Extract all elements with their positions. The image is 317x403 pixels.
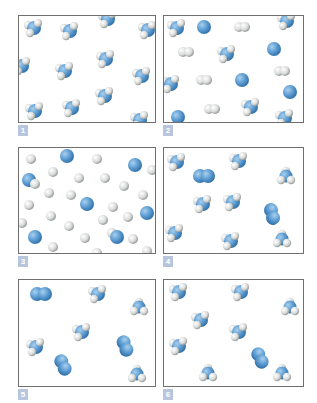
ammonia-molecule [130, 111, 148, 123]
nitrogen-atom [110, 230, 124, 244]
nitrogen-atom [128, 158, 142, 172]
ammonia-molecule [191, 311, 209, 329]
ammonia-molecule [25, 102, 43, 120]
ammonia-molecule [167, 153, 185, 171]
ammonia-molecule [169, 283, 187, 301]
ammonia-molecule [60, 22, 78, 40]
ammonia-molecule [98, 16, 116, 28]
hydrogen-atom [44, 188, 54, 198]
ammonia-molecule [281, 298, 299, 315]
ammonia-molecule [167, 19, 185, 37]
ammonia-molecule [88, 285, 106, 303]
hydrogen-atom [66, 190, 76, 200]
panel-label-4: 4 [163, 256, 173, 267]
hydrogen-atom [48, 167, 58, 177]
hydrogen-molecule [196, 75, 212, 85]
hydrogen-atom [19, 218, 27, 228]
ammonia-molecule [169, 337, 187, 355]
hydrogen-molecule [234, 22, 250, 32]
ammonia-molecule [95, 87, 113, 105]
nitrogen-molecule [115, 333, 136, 358]
hydrogen-atom [98, 215, 108, 225]
ammonia-molecule [55, 62, 73, 80]
nitrogen-molecule [249, 345, 271, 371]
hydrogen-atom [123, 212, 133, 222]
hydrogen-atom [100, 173, 110, 183]
ammonia-molecule [26, 338, 44, 356]
ammonia-molecule [128, 365, 146, 382]
nitrogen-atom [60, 149, 74, 163]
molecule-canvas [19, 280, 156, 387]
hydrogen-molecule [178, 47, 194, 57]
ammonia-molecule [277, 167, 295, 184]
hydrogen-atom [24, 200, 34, 210]
panel-label-6: 6 [163, 389, 173, 400]
ammonia-molecule [217, 45, 235, 63]
panel-6 [163, 279, 304, 387]
molecule-canvas [164, 16, 304, 123]
nitrogen-atom [28, 230, 42, 244]
panel-label-2: 2 [163, 125, 173, 136]
ammonia-molecule [273, 364, 291, 381]
panel-label-1: 1 [18, 125, 28, 136]
ammonia-molecule [164, 75, 179, 93]
nitrogen-atom [283, 85, 297, 99]
ammonia-molecule [231, 283, 249, 301]
ammonia-molecule [199, 364, 217, 381]
molecule-canvas [164, 280, 304, 387]
ammonia-molecule [193, 195, 211, 213]
hydrogen-atom [30, 179, 40, 189]
nitrogen-molecule [193, 169, 215, 183]
hydrogen-molecule [274, 66, 290, 76]
panel-5 [18, 279, 156, 387]
hydrogen-atom [147, 165, 156, 175]
molecule-canvas [164, 148, 304, 254]
ammonia-molecule [130, 298, 148, 315]
nitrogen-atom [171, 110, 185, 123]
nitrogen-atom [140, 206, 154, 220]
hydrogen-atom [138, 190, 148, 200]
ammonia-molecule [229, 152, 247, 170]
nitrogen-molecule [52, 352, 74, 378]
ammonia-molecule [138, 21, 156, 39]
ammonia-molecule [96, 50, 114, 68]
panel-label-3: 3 [18, 256, 28, 267]
ammonia-molecule [165, 224, 183, 242]
hydrogen-atom [119, 181, 129, 191]
panel-1 [18, 15, 156, 123]
ammonia-molecule [241, 98, 259, 116]
panel-2 [163, 15, 304, 123]
hydrogen-atom [64, 221, 74, 231]
ammonia-molecule [229, 323, 247, 341]
hydrogen-atom [92, 154, 102, 164]
panel-label-5: 5 [18, 389, 28, 400]
hydrogen-atom [80, 233, 90, 243]
hydrogen-atom [142, 246, 152, 254]
ammonia-molecule [62, 99, 80, 117]
nitrogen-atom [235, 73, 249, 87]
ammonia-molecule [132, 67, 150, 85]
nitrogen-atom [197, 20, 211, 34]
hydrogen-atom [108, 202, 118, 212]
hydrogen-atom [74, 173, 84, 183]
ammonia-molecule [273, 230, 291, 247]
hydrogen-atom [48, 242, 58, 252]
hydrogen-atom [92, 248, 102, 254]
ammonia-molecule [72, 323, 90, 341]
nitrogen-molecule [262, 202, 281, 227]
panel-3 [18, 147, 156, 254]
ammonia-molecule [221, 232, 239, 250]
hydrogen-molecule [204, 104, 220, 114]
nitrogen-molecule [30, 287, 52, 301]
hydrogen-atom [46, 211, 56, 221]
nitrogen-atom [267, 42, 281, 56]
panel-4 [163, 147, 304, 254]
molecule-canvas [19, 16, 156, 123]
nitrogen-atom [80, 197, 94, 211]
hydrogen-atom [128, 234, 138, 244]
ammonia-molecule [277, 16, 295, 30]
ammonia-molecule [275, 109, 293, 123]
hydrogen-atom [26, 154, 36, 164]
ammonia-molecule [24, 19, 42, 37]
ammonia-molecule [19, 57, 30, 75]
